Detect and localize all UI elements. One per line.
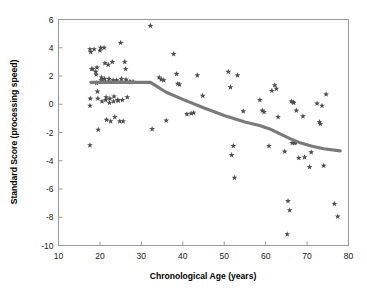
chart-figure: 1020304050607080 6420-2-4-6-8-10 Chronol… [0,0,367,291]
x-tick-label: 20 [95,251,105,261]
y-tick-label: 0 [49,99,54,109]
x-tick-label: 60 [261,251,271,261]
y-tick-label: 2 [49,71,54,81]
y-axis-title: Standard Score (processing speed) [9,60,19,205]
y-tick-label: -4 [46,156,54,166]
y-tick-label: 6 [49,15,54,25]
x-tick-label: 70 [302,251,312,261]
x-tick-label: 40 [178,251,188,261]
y-tick-label: -2 [46,128,54,138]
x-axis-title: Chronological Age (years) [150,271,257,281]
x-tick-label: 80 [344,251,354,261]
y-tick-label: -10 [41,241,54,251]
x-tick-label: 50 [219,251,229,261]
y-tick-label: -8 [46,212,54,222]
y-tick-label: 4 [49,43,54,53]
scatter-plot-svg: 1020304050607080 6420-2-4-6-8-10 Chronol… [0,0,367,291]
x-tick-label: 10 [54,251,64,261]
x-tick-label: 30 [137,251,147,261]
y-tick-label: -6 [46,184,54,194]
